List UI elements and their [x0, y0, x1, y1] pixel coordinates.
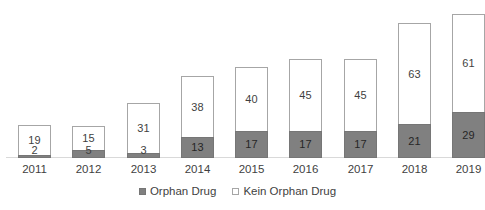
bar-value-label: 21	[408, 136, 420, 147]
bar-value-label: 17	[354, 139, 366, 150]
tick-label-2015: 2015	[235, 163, 268, 176]
bar-segment-kein-orphan-drug[interactable]: 40	[235, 67, 268, 131]
legend-swatch-outlined-square-icon	[232, 188, 239, 195]
tick-label-2011: 2011	[18, 163, 51, 176]
bar-segment-kein-orphan-drug[interactable]: 15	[72, 126, 105, 150]
bar-group: 6129	[452, 14, 485, 158]
bar-value-label: 17	[245, 139, 257, 150]
bar-segment-kein-orphan-drug[interactable]: 31	[127, 103, 160, 153]
bar-value-label: 15	[82, 133, 94, 144]
plot-area: 192155313381340174517451763216129	[0, 0, 475, 158]
legend-label-orphan-drug: Orphan Drug	[150, 185, 216, 197]
bar-segment-kein-orphan-drug[interactable]: 38	[181, 76, 214, 137]
tick-label-2013: 2013	[127, 163, 160, 176]
bar-value-label: 38	[191, 102, 203, 113]
tick-label-2012: 2012	[72, 163, 105, 176]
bar-value-label: 45	[299, 90, 311, 101]
bar-value-label: 13	[191, 142, 203, 153]
legend-item-orphan-drug[interactable]: Orphan Drug	[139, 185, 216, 197]
bar-value-label: 61	[462, 58, 474, 69]
bar-segment-orphan-drug[interactable]: 2	[18, 155, 51, 158]
bar-segment-kein-orphan-drug[interactable]: 45	[289, 59, 322, 131]
bar-group: 4517	[344, 59, 377, 158]
legend-swatch-filled-square-icon	[139, 188, 146, 195]
bar-group: 4017	[235, 67, 268, 158]
chart-legend: Orphan Drug Kein Orphan Drug	[0, 185, 475, 197]
tick-label-2018: 2018	[398, 163, 431, 176]
tick-label-2014: 2014	[181, 163, 214, 176]
bar-segment-kein-orphan-drug[interactable]: 45	[344, 59, 377, 131]
legend-item-kein-orphan-drug[interactable]: Kein Orphan Drug	[232, 185, 336, 197]
tick-label-2019: 2019	[452, 163, 485, 176]
bar-value-label: 19	[28, 135, 40, 146]
legend-label-kein-orphan-drug: Kein Orphan Drug	[243, 185, 336, 197]
bar-segment-orphan-drug[interactable]: 17	[344, 131, 377, 158]
bar-group: 313	[127, 103, 160, 158]
bar-segment-orphan-drug[interactable]: 17	[289, 131, 322, 158]
bar-group: 192	[18, 125, 51, 158]
bar-segment-kein-orphan-drug[interactable]: 61	[452, 14, 485, 112]
bar-value-label: 45	[354, 90, 366, 101]
bar-segment-kein-orphan-drug[interactable]: 19	[18, 125, 51, 155]
bar-group: 6321	[398, 23, 431, 158]
tick-label-2016: 2016	[289, 163, 322, 176]
bar-segment-orphan-drug[interactable]: 17	[235, 131, 268, 158]
bar-value-label: 63	[408, 69, 420, 80]
bar-segment-orphan-drug[interactable]: 21	[398, 124, 431, 158]
bar-segment-orphan-drug[interactable]: 3	[127, 153, 160, 158]
tick-label-2017: 2017	[344, 163, 377, 176]
bar-segment-orphan-drug[interactable]: 29	[452, 112, 485, 158]
bar-value-label: 17	[299, 139, 311, 150]
bar-value-label: 29	[462, 130, 474, 141]
bar-segment-kein-orphan-drug[interactable]: 63	[398, 23, 431, 124]
bar-value-label: 31	[137, 123, 149, 134]
bar-group: 155	[72, 126, 105, 158]
bar-group: 3813	[181, 76, 214, 158]
bar-group: 4517	[289, 59, 322, 158]
bar-segment-orphan-drug[interactable]: 13	[181, 137, 214, 158]
bar-segment-orphan-drug[interactable]: 5	[72, 150, 105, 158]
bar-value-label: 40	[245, 94, 257, 105]
